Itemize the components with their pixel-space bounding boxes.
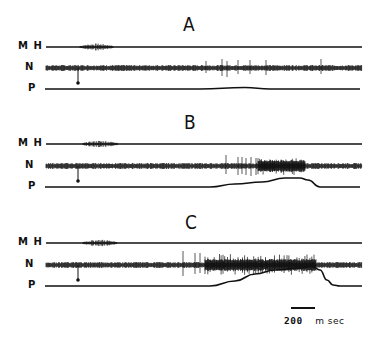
panel-b-mh-burst: [83, 141, 117, 147]
neural-recording-figure: A M H N P B M H N P C M H N P 200 m sec: [0, 0, 380, 343]
panel-b-p-trace: [45, 178, 360, 187]
panel-a-n-label: N: [25, 61, 34, 72]
scale-bar-value: 200: [284, 315, 303, 326]
panel-c-p-label: P: [28, 279, 36, 290]
panel-c-n-label: N: [25, 258, 34, 269]
panel-a-mh-burst: [80, 44, 113, 51]
panel-c-mh-label: M H: [18, 236, 43, 247]
panel-c-letter: C: [185, 210, 197, 234]
panel-b-mh-label: M H: [18, 137, 43, 148]
panel-b-letter: B: [184, 110, 196, 134]
panel-c-stimulus-dot: [76, 278, 80, 282]
panel-b-stimulus-dot: [76, 179, 80, 183]
panel-b-p-label: P: [28, 180, 36, 191]
panel-a-p-label: P: [28, 82, 36, 93]
panel-a-n-trace: [46, 65, 362, 71]
panel-a-stimulus-dot: [76, 81, 80, 85]
panel-c-mh-burst: [83, 240, 117, 246]
trace-canvas: [0, 0, 380, 343]
panel-b-n-spikes: [226, 155, 305, 176]
panel-a-letter: A: [183, 12, 195, 36]
panel-b-n-label: N: [25, 159, 34, 170]
panel-b-n-trace: [46, 163, 362, 169]
scale-bar-unit: m sec: [315, 316, 344, 326]
panel-a-mh-label: M H: [18, 40, 43, 51]
scale-bar-label: 200 m sec: [284, 315, 344, 326]
panel-a-p-trace: [45, 88, 360, 90]
